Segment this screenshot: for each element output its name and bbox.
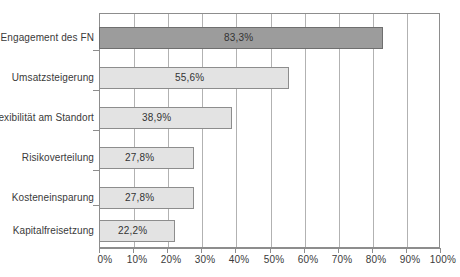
x-tick: [406, 248, 407, 253]
x-tick: [235, 248, 236, 253]
x-tick: [440, 248, 441, 253]
category-label-umsatzsteigerung: Umsatzsteigerung: [12, 67, 94, 89]
category-label-kapitalfreisetzung: Kapitalfreisetzung: [13, 220, 94, 242]
bar-row: 83,3%: [99, 27, 440, 49]
x-tick: [270, 248, 271, 253]
x-tick: [167, 248, 168, 253]
bar-row: 38,9%: [99, 107, 440, 129]
x-tick-label: 50%: [264, 254, 285, 265]
y-tick: [93, 90, 99, 91]
x-tick-label: 10%: [127, 254, 148, 265]
y-tick: [93, 50, 99, 51]
category-axis: Engagement des FN Umsatzsteigerung Flexi…: [0, 13, 99, 248]
category-label-risikoverteilung: Risikoverteilung: [22, 147, 94, 169]
bar-value-label: 22,2%: [118, 220, 147, 242]
bar-value-label: 27,8%: [125, 147, 154, 169]
bar-value-label: 27,8%: [125, 187, 154, 209]
bar-row: 22,2%: [99, 220, 440, 242]
x-tick: [304, 248, 305, 253]
x-tick-label: 70%: [332, 254, 353, 265]
x-tick-label: 40%: [229, 254, 250, 265]
x-tick: [201, 248, 202, 253]
category-label-kosteneinsparung: Kosteneinsparung: [12, 187, 94, 209]
category-label-engagement-des-fn: Engagement des FN: [1, 27, 94, 49]
x-tick-label: 0%: [98, 254, 113, 265]
bar-value-label: 38,9%: [142, 107, 171, 129]
bar-row: 55,6%: [99, 67, 440, 89]
y-tick: [93, 130, 99, 131]
bars-layer: 83,3% 55,6% 38,9% 27,8% 27,8% 22,2%: [99, 13, 440, 248]
x-tick-label: 100%: [430, 254, 456, 265]
y-tick: [93, 170, 99, 171]
x-tick-label: 90%: [400, 254, 421, 265]
bar-value-label: 83,3%: [224, 27, 253, 49]
x-tick-label: 60%: [298, 254, 319, 265]
y-tick: [93, 205, 99, 206]
x-tick-label: 30%: [195, 254, 216, 265]
x-tick-label: 80%: [366, 254, 387, 265]
category-label-flexibilitaet-am-standort: Flexibilität am Standort: [0, 107, 94, 129]
x-tick: [372, 248, 373, 253]
bar-chart: 83,3% 55,6% 38,9% 27,8% 27,8% 22,2% Enga…: [0, 0, 460, 277]
x-tick: [99, 248, 100, 253]
x-tick: [133, 248, 134, 253]
x-tick-label: 20%: [161, 254, 182, 265]
bar-row: 27,8%: [99, 187, 440, 209]
x-tick: [338, 248, 339, 253]
bar-value-label: 55,6%: [175, 67, 204, 89]
bar-row: 27,8%: [99, 147, 440, 169]
